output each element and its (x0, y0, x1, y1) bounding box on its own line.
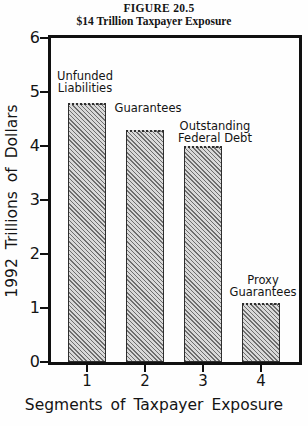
x-tick-mark-1 (86, 365, 88, 372)
bar-label-line: Guarantees (203, 286, 308, 298)
y-tick-label-3: 3 (16, 192, 40, 208)
y-tick-label-6: 6 (16, 30, 40, 46)
figure-20-5-chart: FIGURE 20.5 $14 Trillion Taxpayer Exposu… (0, 0, 308, 426)
x-tick-label-3: 3 (193, 373, 213, 389)
x-tick-mark-4 (260, 365, 262, 372)
x-tick-mark-3 (202, 365, 204, 372)
bar-label-2: Guarantees (88, 102, 208, 114)
x-tick-mark-2 (144, 365, 146, 372)
y-tick-label-1: 1 (16, 300, 40, 316)
bar-label-line: Guarantees (88, 102, 208, 114)
y-tick-label-0: 0 (16, 354, 40, 370)
y-tick-label-2: 2 (16, 246, 40, 262)
figure-title: FIGURE 20.5 (10, 2, 308, 14)
y-tick-mark-4 (40, 145, 48, 147)
bar-3 (184, 146, 222, 362)
y-tick-mark-2 (40, 253, 48, 255)
y-tick-mark-0 (40, 361, 48, 363)
x-tick-label-2: 2 (135, 373, 155, 389)
y-tick-mark-1 (40, 307, 48, 309)
y-tick-mark-6 (40, 37, 48, 39)
bar-label-1: UnfundedLiabilities (25, 70, 145, 94)
x-tick-label-4: 4 (251, 373, 271, 389)
y-tick-label-4: 4 (16, 138, 40, 154)
bar-4 (242, 303, 280, 362)
x-tick-label-1: 1 (77, 373, 97, 389)
bar-label-line: Unfunded (25, 70, 145, 82)
bar-label-line: Liabilities (25, 82, 145, 94)
bar-1 (68, 103, 106, 362)
figure-subtitle: $14 Trillion Taxpayer Exposure (0, 15, 308, 27)
bar-label-line: Proxy (203, 274, 308, 286)
bar-2 (126, 130, 164, 362)
x-axis-label: Segments of Taxpayer Exposure (0, 396, 308, 414)
bar-label-line: Federal Debt (155, 132, 275, 144)
bar-label-3: OutstandingFederal Debt (155, 120, 275, 144)
y-tick-mark-3 (40, 199, 48, 201)
bar-label-4: ProxyGuarantees (203, 274, 308, 298)
